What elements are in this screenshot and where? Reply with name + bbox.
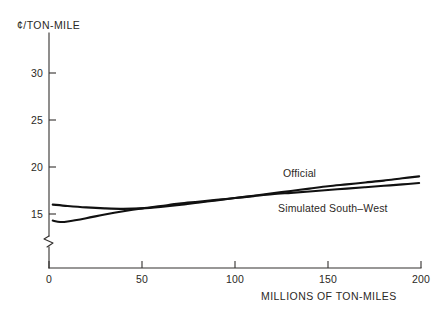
y-tick-label-20: 20 <box>31 161 43 173</box>
y-tick-label-30: 30 <box>31 67 43 79</box>
y-axis-break-icon <box>44 236 53 247</box>
x-tick-label-0: 0 <box>46 273 52 285</box>
chart-figure: 30 25 20 15 0 50 100 150 200 ¢/TON-MILE … <box>0 0 440 309</box>
x-tick-label-150: 150 <box>319 273 337 285</box>
y-tick-label-15: 15 <box>31 208 43 220</box>
y-axis-title: ¢/TON-MILE <box>17 19 80 31</box>
x-axis-title: MILLIONS OF TON-MILES <box>261 290 397 302</box>
y-tick-label-25: 25 <box>31 114 43 126</box>
line-chart: 30 25 20 15 0 50 100 150 200 ¢/TON-MILE … <box>0 0 440 309</box>
x-tick-label-50: 50 <box>136 273 148 285</box>
series-label-simulated-south-west: Simulated South–West <box>278 202 388 214</box>
series-label-official: Official <box>283 167 316 179</box>
x-tick-label-200: 200 <box>412 273 430 285</box>
x-tick-label-100: 100 <box>226 273 244 285</box>
